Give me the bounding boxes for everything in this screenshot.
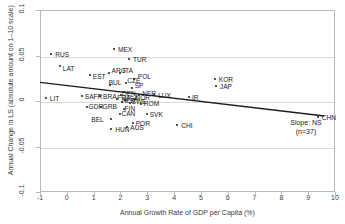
x-tick-mark — [255, 192, 256, 196]
data-point — [86, 106, 88, 108]
data-point — [100, 106, 102, 108]
data-point-label: GRB — [103, 103, 117, 110]
data-point — [146, 113, 148, 115]
data-point-label: MEX — [118, 46, 132, 53]
slope-annotation-line2: (n=37) — [275, 127, 337, 136]
data-point-label: HUN — [115, 126, 129, 133]
data-point — [59, 65, 61, 67]
data-point — [110, 118, 112, 120]
data-point — [81, 95, 83, 97]
x-axis-title: Annual Growth Rate of GDP per Capita (%) — [30, 209, 345, 216]
data-point-label: TUR — [133, 56, 147, 63]
data-point — [113, 48, 115, 50]
y-tick-label: -0.1 — [18, 178, 25, 204]
x-tick-mark — [67, 192, 68, 196]
data-point — [108, 72, 110, 74]
data-point-label: SVK — [150, 111, 163, 118]
slope-annotation-line1: Slope: NS — [275, 118, 337, 127]
data-point-label: EST — [93, 73, 106, 80]
gridline — [41, 148, 334, 149]
data-point-label: KOR — [219, 76, 233, 83]
data-point-label: IR — [192, 94, 199, 101]
x-tick-mark — [335, 192, 336, 196]
data-point-label: RUS — [55, 51, 69, 58]
data-point-label: BRA — [103, 93, 117, 100]
data-point — [131, 87, 133, 89]
x-tick-mark — [281, 192, 282, 196]
data-point — [110, 128, 112, 130]
x-tick-mark — [40, 192, 41, 196]
data-point-label: CHI — [181, 122, 192, 129]
data-point-label: FRA — [117, 94, 130, 101]
scatter-chart-figure: Annual Change in LS (absolute amount on … — [0, 0, 345, 224]
data-point — [50, 53, 52, 55]
data-point — [89, 74, 91, 76]
data-point-label: LAT — [63, 65, 75, 72]
x-tick-mark — [228, 192, 229, 196]
data-point — [45, 97, 47, 99]
data-point — [215, 85, 217, 87]
data-point-label: CAN — [121, 110, 135, 117]
data-point-label: SP — [135, 82, 144, 89]
y-tick-label: 0.1 — [18, 0, 25, 22]
data-point-label: JAP — [220, 83, 232, 90]
x-tick-mark — [94, 192, 95, 196]
data-point-label: NOR — [135, 94, 150, 101]
x-tick-mark — [174, 192, 175, 196]
plot-area: RUSLATLITESTMEXTURARGITAPOLCZEBULSPKORJA… — [40, 10, 335, 192]
y-tick-label: 0 — [18, 87, 25, 113]
y-tick-label: 0.05 — [18, 41, 25, 67]
data-point — [128, 58, 130, 60]
data-point — [214, 78, 216, 80]
data-point-label: BUL — [109, 79, 122, 86]
data-point-label: ITA — [123, 67, 133, 74]
gridline — [41, 57, 334, 58]
data-point — [188, 96, 190, 98]
data-point — [119, 72, 121, 74]
data-point-label: LUX — [158, 92, 171, 99]
data-point-label: BEL — [91, 116, 103, 123]
data-point — [140, 103, 142, 105]
y-tick-label: -0.05 — [18, 132, 25, 158]
x-tick-mark — [308, 192, 309, 196]
data-point-label: LIT — [50, 95, 60, 102]
x-tick-mark — [201, 192, 202, 196]
data-point — [176, 124, 178, 126]
y-axis-title: Annual Change in LS (absolute amount on … — [7, 0, 16, 185]
x-tick-mark — [147, 192, 148, 196]
data-point-label: AUS — [130, 124, 144, 131]
slope-annotation: Slope: NS (n=37) — [275, 118, 337, 136]
gridline — [41, 102, 334, 103]
data-point-label: ROM — [144, 100, 159, 107]
x-tick-mark — [120, 192, 121, 196]
